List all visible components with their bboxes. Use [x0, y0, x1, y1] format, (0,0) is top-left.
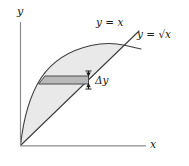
- delta-y-strip-rect: [39, 76, 89, 84]
- curve-label-line: y = x: [96, 17, 123, 28]
- y-axis-label: y: [17, 6, 23, 17]
- x-axis-label: x: [150, 139, 156, 150]
- delta-y-label: Δy: [95, 75, 109, 86]
- figure-container: y x y = x y = √x Δy: [0, 0, 189, 166]
- curve-label-sqrt: y = √x: [137, 29, 171, 40]
